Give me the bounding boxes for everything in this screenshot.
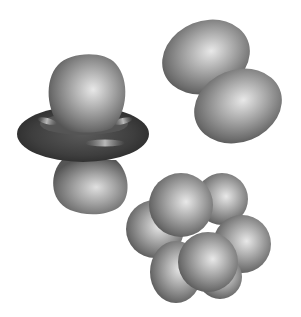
f-lobe-top: [149, 173, 213, 237]
f-lobe-front: [178, 232, 238, 292]
p-orbital: [151, 7, 293, 156]
dz2-top-lobe: [49, 54, 126, 132]
dz2-bottom-lobe: [53, 160, 127, 214]
orbital-diagram: [0, 0, 301, 317]
orbital-figure: Atomic orbital shapes: [0, 0, 301, 317]
dz2-torus-highlight-front: [85, 140, 125, 147]
dz2-orbital: [17, 54, 149, 214]
f-orbital: [126, 173, 271, 303]
